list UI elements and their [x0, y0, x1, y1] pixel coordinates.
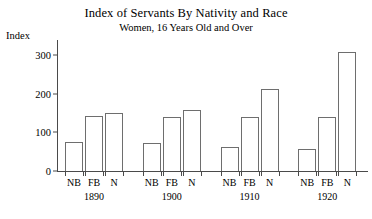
- x-sub-label: N: [188, 177, 195, 188]
- x-tick-mark: [279, 171, 280, 176]
- bar: [241, 117, 259, 171]
- bar: [318, 117, 336, 171]
- x-group-label: 1890: [84, 191, 104, 202]
- x-tick-mark: [105, 171, 106, 176]
- x-tick-mark: [143, 171, 144, 176]
- x-tick-mark: [85, 171, 86, 176]
- x-group-label: 1910: [240, 191, 260, 202]
- bar: [183, 110, 201, 171]
- x-sub-label: N: [344, 177, 351, 188]
- y-axis-label: Index: [6, 30, 30, 41]
- y-tick-mark: [53, 171, 57, 172]
- x-sub-label: NB: [67, 177, 81, 188]
- bar: [298, 149, 316, 171]
- x-group-label: 1900: [162, 191, 182, 202]
- y-tick-mark: [53, 132, 57, 133]
- bar: [221, 147, 239, 171]
- chart-subtitle: Women, 16 Years Old and Over: [0, 22, 372, 33]
- x-tick-mark: [181, 171, 182, 176]
- bar: [65, 142, 83, 171]
- x-tick-mark: [83, 171, 84, 176]
- x-sub-label: FB: [243, 177, 255, 188]
- bar: [143, 143, 161, 171]
- bar: [105, 113, 123, 171]
- x-tick-mark: [221, 171, 222, 176]
- bar: [85, 116, 103, 171]
- plot-area: 0100200300 NBFBNNBFBNNBFBNNBFBN189019001…: [57, 40, 368, 172]
- x-sub-label: FB: [166, 177, 178, 188]
- x-sub-label: N: [266, 177, 273, 188]
- y-tick-mark: [53, 55, 57, 56]
- x-tick-mark: [259, 171, 260, 176]
- y-tick-label: 200: [35, 88, 51, 99]
- x-tick-mark: [336, 171, 337, 176]
- x-sub-label: FB: [321, 177, 333, 188]
- x-tick-mark: [161, 171, 162, 176]
- x-sub-label: NB: [300, 177, 314, 188]
- x-sub-label: NB: [223, 177, 237, 188]
- chart-figure: Index of Servants By Nativity and Race W…: [0, 0, 372, 219]
- y-tick-label: 100: [35, 127, 51, 138]
- x-group-label: 1920: [317, 191, 337, 202]
- x-tick-mark: [239, 171, 240, 176]
- x-tick-mark: [261, 171, 262, 176]
- bar: [338, 52, 356, 171]
- y-axis-line: [57, 40, 58, 172]
- x-tick-mark: [298, 171, 299, 176]
- chart-title: Index of Servants By Nativity and Race: [0, 6, 372, 21]
- bar: [261, 89, 279, 171]
- x-tick-mark: [241, 171, 242, 176]
- x-tick-mark: [318, 171, 319, 176]
- y-tick-label: 300: [35, 50, 51, 61]
- x-tick-mark: [316, 171, 317, 176]
- x-tick-mark: [123, 171, 124, 176]
- x-sub-label: N: [110, 177, 117, 188]
- y-tick-label: 0: [46, 166, 51, 177]
- x-tick-mark: [183, 171, 184, 176]
- x-tick-mark: [65, 171, 66, 176]
- x-tick-mark: [356, 171, 357, 176]
- x-sub-label: FB: [88, 177, 100, 188]
- x-sub-label: NB: [145, 177, 159, 188]
- x-tick-mark: [103, 171, 104, 176]
- bar: [163, 117, 181, 171]
- y-tick-mark: [53, 93, 57, 94]
- x-tick-mark: [201, 171, 202, 176]
- x-tick-mark: [338, 171, 339, 176]
- x-tick-mark: [163, 171, 164, 176]
